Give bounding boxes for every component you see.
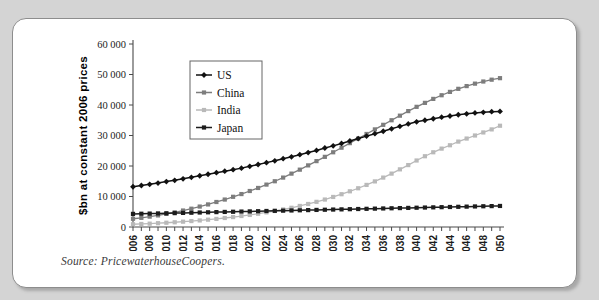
- x-tick-label: 2040: [411, 235, 422, 251]
- x-tick-label: 2044: [445, 235, 456, 251]
- data-point-marker: [264, 183, 268, 187]
- data-point-marker: [180, 176, 186, 182]
- data-point-marker: [222, 168, 228, 174]
- data-point-marker: [339, 141, 345, 147]
- data-point-marker: [473, 133, 477, 137]
- data-point-marker: [231, 195, 235, 199]
- data-point-marker: [239, 209, 243, 213]
- data-point-marker: [373, 179, 377, 183]
- data-point-marker: [239, 214, 243, 218]
- data-point-marker: [465, 84, 469, 88]
- data-point-marker: [490, 204, 494, 208]
- data-point-marker: [348, 207, 352, 211]
- data-point-marker: [198, 218, 202, 222]
- data-point-marker: [314, 200, 318, 204]
- legend-label: Japan: [217, 122, 243, 135]
- data-point-marker: [456, 205, 460, 209]
- data-point-marker: [465, 136, 469, 140]
- data-point-marker: [430, 116, 436, 122]
- data-point-marker: [373, 207, 377, 211]
- data-point-marker: [339, 192, 343, 196]
- data-point-marker: [256, 209, 260, 213]
- data-point-marker: [414, 119, 420, 125]
- data-point-marker: [398, 114, 402, 118]
- data-point-marker: [431, 97, 435, 101]
- y-axis-title: $bn at constant 2006 prices: [77, 56, 89, 215]
- data-point-marker: [188, 174, 194, 180]
- data-point-marker: [423, 154, 427, 158]
- data-point-marker: [381, 206, 385, 210]
- data-point-marker: [172, 177, 178, 183]
- data-point-marker: [298, 168, 302, 172]
- data-point-marker: [139, 216, 143, 220]
- data-point-marker: [131, 222, 135, 226]
- data-point-marker: [364, 207, 368, 211]
- data-point-marker: [202, 125, 206, 129]
- data-point-marker: [497, 109, 503, 115]
- data-point-marker: [214, 217, 218, 221]
- data-point-marker: [248, 189, 252, 193]
- data-point-marker: [239, 192, 243, 196]
- data-point-marker: [440, 205, 444, 209]
- data-point-marker: [289, 208, 293, 212]
- data-point-marker: [481, 79, 485, 83]
- data-point-marker: [255, 162, 261, 168]
- data-point-marker: [280, 156, 286, 162]
- data-point-marker: [405, 121, 411, 127]
- legend-label: US: [217, 69, 232, 81]
- data-point-marker: [198, 204, 202, 208]
- data-point-marker: [406, 206, 410, 210]
- data-point-marker: [389, 126, 395, 132]
- data-point-marker: [380, 128, 386, 134]
- data-point-marker: [147, 181, 153, 187]
- data-point-marker: [489, 109, 495, 115]
- x-tick-label: 2050: [495, 235, 506, 251]
- data-point-marker: [247, 163, 253, 169]
- data-point-marker: [156, 211, 160, 215]
- data-point-marker: [389, 206, 393, 210]
- data-point-marker: [364, 183, 368, 187]
- data-point-marker: [163, 179, 169, 185]
- data-point-marker: [314, 208, 318, 212]
- data-point-marker: [139, 212, 143, 216]
- data-point-marker: [181, 211, 185, 215]
- data-point-marker: [414, 206, 418, 210]
- data-point-marker: [406, 163, 410, 167]
- data-point-marker: [498, 124, 502, 128]
- data-point-marker: [298, 208, 302, 212]
- data-point-marker: [281, 209, 285, 213]
- data-point-marker: [289, 172, 293, 176]
- data-point-marker: [223, 210, 227, 214]
- data-point-marker: [423, 101, 427, 105]
- y-tick-label: 40 000: [97, 100, 126, 111]
- x-tick-label: 2012: [178, 235, 189, 251]
- data-point-marker: [202, 108, 206, 112]
- data-point-marker: [197, 173, 203, 179]
- x-tick-label: 2022: [261, 235, 272, 251]
- data-point-marker: [372, 131, 378, 137]
- data-point-marker: [348, 189, 352, 193]
- data-point-marker: [323, 208, 327, 212]
- data-point-marker: [314, 148, 320, 154]
- data-point-marker: [389, 172, 393, 176]
- data-point-marker: [138, 183, 144, 189]
- data-point-marker: [306, 163, 310, 167]
- data-point-marker: [223, 216, 227, 220]
- figure-card: 010 00020 00030 00040 00050 00060 000$bn…: [12, 18, 577, 288]
- data-point-marker: [439, 114, 445, 120]
- data-point-marker: [297, 152, 303, 158]
- data-point-marker: [289, 154, 295, 160]
- data-point-marker: [448, 90, 452, 94]
- x-tick-label: 2028: [311, 235, 322, 251]
- data-point-marker: [148, 211, 152, 215]
- data-point-marker: [381, 123, 385, 127]
- data-point-marker: [202, 90, 206, 94]
- x-tick-label: 2030: [328, 235, 339, 251]
- data-point-marker: [498, 204, 502, 208]
- data-point-marker: [306, 208, 310, 212]
- data-point-marker: [189, 219, 193, 223]
- data-point-marker: [448, 205, 452, 209]
- data-point-marker: [447, 113, 453, 119]
- x-tick-label: 2008: [144, 235, 155, 251]
- data-point-marker: [323, 197, 327, 201]
